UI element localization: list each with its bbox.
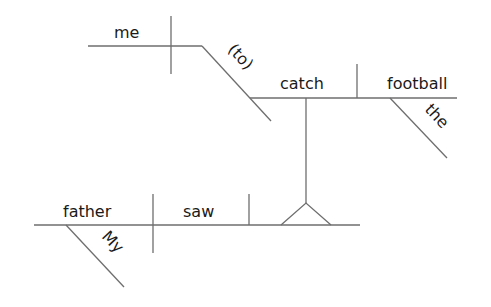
word-saw: saw [183, 202, 214, 221]
word-father: father [63, 202, 112, 221]
word-football: football [387, 74, 447, 93]
word-my: My [98, 227, 128, 257]
word-me: me [114, 23, 139, 42]
sentence-diagram: father saw me catch football (to) the My [0, 0, 491, 307]
word-the: the [421, 100, 453, 132]
word-to: (to) [224, 40, 257, 74]
pedestal [281, 203, 331, 225]
word-catch: catch [280, 74, 324, 93]
